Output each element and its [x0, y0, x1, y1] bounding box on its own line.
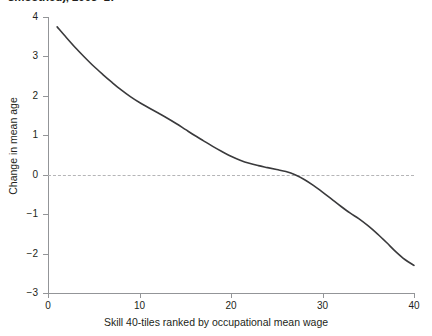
x-tick-label-0: 0 — [33, 301, 63, 311]
x-tick-30 — [323, 293, 324, 298]
x-tick-label-20: 20 — [216, 301, 246, 311]
y-axis-title: Change in mean age — [7, 71, 19, 221]
y-tick-label--1: −1 — [27, 209, 38, 219]
y-tick-label-0: 0 — [32, 170, 38, 180]
x-tick-label-10: 10 — [125, 301, 155, 311]
x-tick-40 — [414, 293, 415, 298]
data-plot — [48, 17, 414, 293]
x-tick-0 — [48, 293, 49, 298]
y-tick-label--2: −2 — [27, 249, 38, 259]
y-tick-label--3: −3 — [27, 288, 38, 298]
chart-figure: smoothed), 2003–17 Change in mean age 43… — [0, 0, 432, 336]
y-tick-label-3: 3 — [32, 51, 38, 61]
x-tick-label-30: 30 — [308, 301, 338, 311]
chart-title: smoothed), 2003–17 — [8, 0, 116, 3]
x-tick-10 — [140, 293, 141, 298]
y-tick-label-1: 1 — [32, 130, 38, 140]
y-tick-label-2: 2 — [32, 91, 38, 101]
x-tick-label-40: 40 — [399, 301, 429, 311]
y-tick-label-4: 4 — [32, 12, 38, 22]
x-tick-20 — [231, 293, 232, 298]
series-line-change-in-mean-age — [57, 27, 414, 266]
x-axis-title: Skill 40-tiles ranked by occupational me… — [0, 316, 432, 328]
